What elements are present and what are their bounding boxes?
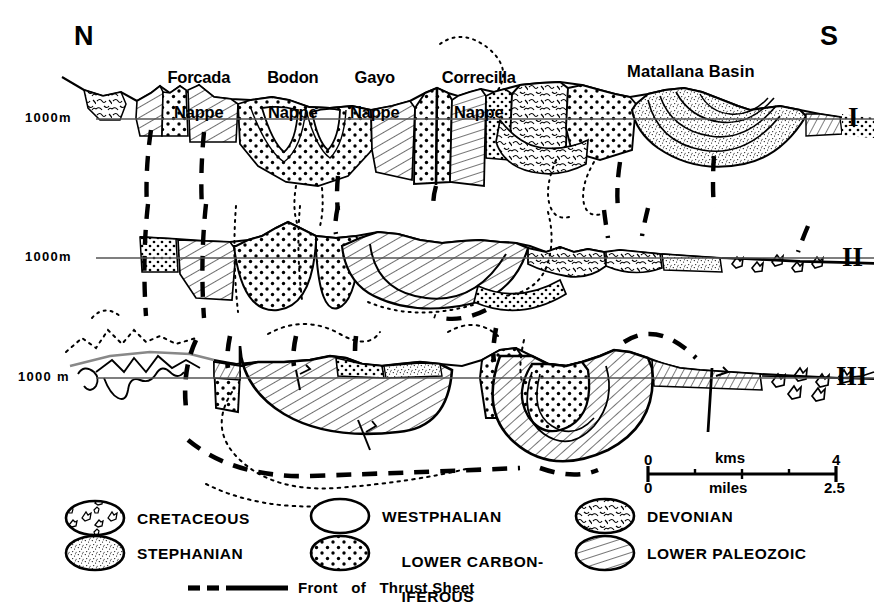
unit-stephanian bbox=[384, 363, 442, 378]
thrust-front-dashed bbox=[227, 336, 230, 368]
cross-section-figure: N S Forcada Nappe Bodon Nappe Gayo Nappe… bbox=[0, 0, 879, 612]
label-gayo-line2: Nappe bbox=[350, 103, 399, 121]
inferred-trace-dotted bbox=[92, 310, 120, 318]
scalebar-kms-min: 0 bbox=[644, 452, 652, 468]
unit-stephanian bbox=[632, 88, 806, 167]
thrust-front-dashed bbox=[540, 468, 598, 475]
legend-swatch-devonian bbox=[576, 499, 634, 533]
inferred-trace-dotted bbox=[320, 188, 323, 226]
label-forcada-line2: Nappe bbox=[174, 103, 223, 121]
section-II bbox=[92, 204, 874, 319]
compass-south: S bbox=[820, 22, 838, 50]
unit-devonian bbox=[606, 250, 662, 273]
section-label-III: III bbox=[836, 362, 868, 390]
section-label-II: II bbox=[842, 243, 863, 271]
thrust-front-dashed bbox=[147, 130, 152, 208]
legend-label-cretaceous: CRETACEOUS bbox=[137, 510, 250, 527]
thrust-front-dashed bbox=[201, 132, 204, 208]
thrust-front-dashed bbox=[335, 206, 338, 234]
scalebar-miles-min: 0 bbox=[644, 480, 652, 496]
scalebar-kms-max: 4 bbox=[832, 452, 840, 468]
datum-label-II: 1000m bbox=[25, 250, 72, 264]
label-forcada-nappe: Forcada Nappe bbox=[148, 52, 232, 139]
label-bodon-line2: Nappe bbox=[268, 103, 317, 121]
label-matallana-basin: Matallana Basin bbox=[627, 63, 755, 80]
inferred-trace-dotted bbox=[206, 484, 330, 507]
scalebar-miles-label: miles bbox=[709, 480, 747, 496]
legend-swatch-lower-paleozoic bbox=[576, 536, 634, 570]
unit-lower-paleozoic bbox=[652, 360, 762, 390]
datum-label-I: 1000m bbox=[25, 111, 72, 125]
label-forcada-line1: Forcada bbox=[167, 68, 230, 86]
unit-lower-paleozoic bbox=[806, 114, 842, 136]
legend-swatch-westphalian bbox=[311, 499, 369, 533]
legend-swatch-stephanian bbox=[66, 536, 124, 570]
inferred-trace-dotted bbox=[448, 325, 498, 336]
thrust-front-dashed bbox=[798, 226, 808, 252]
scalebar-miles-max: 2.5 bbox=[824, 480, 845, 496]
inferred-trace-dotted bbox=[294, 186, 298, 226]
datum-label-III: 1000 m bbox=[18, 370, 70, 384]
legend-label-lower-paleozoic: LOWER PALEOZOIC bbox=[647, 545, 807, 562]
label-correcilla-nappe: Correcilla Nappe bbox=[420, 52, 520, 139]
thrust-front-dashed bbox=[337, 176, 338, 210]
legend-label-devonian: DEVONIAN bbox=[647, 508, 733, 525]
legend-label-lower-carboniferous-line1: LOWER CARBON- bbox=[401, 553, 543, 570]
legend-swatch-cretaceous bbox=[66, 501, 124, 535]
unit-lower-carboniferous bbox=[336, 358, 384, 378]
unit-lower-carboniferous bbox=[234, 222, 316, 310]
section-III bbox=[66, 324, 874, 507]
legend-label-thrust-front: Front of Thrust Sheet bbox=[298, 580, 475, 596]
thrust-front-dashed bbox=[642, 208, 648, 236]
compass-north: N bbox=[74, 22, 94, 50]
thrust-front-dashed bbox=[617, 162, 620, 208]
inferred-trace-dotted bbox=[583, 162, 602, 215]
label-gayo-nappe: Gayo Nappe bbox=[330, 52, 402, 139]
thrust-front-dashed bbox=[188, 440, 520, 476]
unit-lower-paleozoic bbox=[178, 240, 236, 300]
legend-label-westphalian: WESTPHALIAN bbox=[382, 508, 502, 525]
label-bodon-line1: Bodon bbox=[267, 68, 318, 86]
topography-irregular bbox=[78, 356, 200, 390]
inferred-trace-dotted bbox=[268, 324, 380, 342]
legend-swatch-lower-carboniferous bbox=[311, 536, 369, 570]
label-correcilla-line2: Nappe bbox=[454, 103, 503, 121]
thrust-front-dashed bbox=[493, 328, 496, 362]
legend-label-lower-carboniferous: LOWER CARBON- IFEROUS bbox=[382, 536, 544, 612]
legend-label-stephanian: STEPHANIAN bbox=[137, 545, 243, 562]
section-label-I: I bbox=[848, 103, 859, 131]
label-bodon-nappe: Bodon Nappe bbox=[246, 52, 322, 139]
topography-irregular bbox=[104, 368, 184, 399]
palaeosurface-dotted bbox=[66, 330, 196, 352]
label-gayo-line1: Gayo bbox=[355, 68, 395, 86]
unit-lower-paleozoic bbox=[240, 346, 452, 434]
label-correcilla-line1: Correcilla bbox=[442, 68, 516, 86]
thrust-front-dashed bbox=[185, 340, 196, 408]
thrust-front-dashed bbox=[713, 156, 714, 208]
scalebar-kms-label: kms bbox=[715, 450, 745, 466]
unit-devonian bbox=[528, 247, 606, 277]
thrust-front-dashed bbox=[604, 210, 608, 238]
thrust-front-dashed bbox=[434, 310, 486, 319]
thrust-front-dashed bbox=[433, 186, 436, 210]
